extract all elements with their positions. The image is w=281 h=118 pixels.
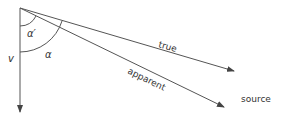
true-direction-line: [20, 8, 234, 71]
alpha-label: α: [45, 49, 52, 60]
source-label: source: [241, 94, 271, 104]
alpha-prime-label: α′: [27, 28, 37, 39]
diagram-svg: α′ α v true apparent source: [0, 0, 281, 118]
true-label: true: [157, 39, 178, 54]
velocity-label: v: [8, 53, 15, 64]
alpha-prime-arc: [20, 16, 36, 26]
aberration-diagram: α′ α v true apparent source: [0, 0, 281, 118]
